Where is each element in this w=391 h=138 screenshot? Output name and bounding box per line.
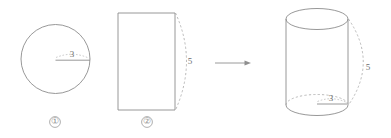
cylinder-height-arc: [349, 19, 364, 105]
circle-radius-label: 3: [70, 49, 75, 59]
figure-two-numeral: ②: [143, 116, 151, 126]
figure-rectangle-group: 5: [118, 13, 193, 110]
cylinder-construction-diagram: 3 ① 5 ②: [0, 0, 391, 138]
cylinder-bottom-front-arc: [286, 105, 348, 116]
transform-arrow-group: [215, 61, 251, 66]
cylinder-top-ellipse: [286, 9, 348, 30]
lateral-rectangle: [118, 13, 175, 110]
rectangle-height-label: 5: [188, 56, 193, 66]
base-circle: [21, 25, 90, 94]
figure-one-caption-group: ①: [50, 116, 61, 127]
rectangle-height-arc: [176, 13, 187, 110]
figure-cylinder-group: 3 5: [286, 9, 371, 116]
figure-circle-group: 3: [21, 25, 90, 94]
arrow-head-icon: [245, 61, 252, 66]
cylinder-radius-label: 3: [329, 93, 334, 103]
cylinder-height-label: 5: [366, 62, 371, 72]
figure-one-numeral: ①: [51, 116, 59, 126]
figure-two-caption-group: ②: [142, 116, 153, 127]
geometry-figure-container: 3 ① 5 ②: [0, 0, 391, 138]
